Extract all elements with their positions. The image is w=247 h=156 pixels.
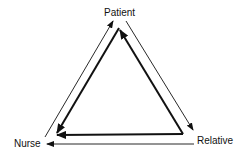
triangle-diagram	[0, 0, 247, 156]
node-label-nurse: Nurse	[14, 138, 41, 149]
node-label-relative: Relative	[197, 135, 233, 146]
edge-nurse-to-patient	[45, 21, 113, 137]
edge-patient-to-relative	[126, 21, 193, 130]
edge-relative-to-patient	[120, 30, 183, 134]
edge-relative-to-nurse-inner	[57, 134, 183, 135]
node-label-patient: Patient	[104, 7, 135, 18]
edge-patient-to-nurse	[57, 28, 119, 133]
